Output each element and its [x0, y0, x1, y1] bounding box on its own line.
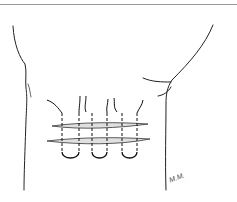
left-crease: [28, 84, 31, 97]
right-body-contour: [166, 25, 213, 190]
shoulder-line: [143, 78, 171, 82]
armpit-line: [158, 87, 171, 96]
left-body-contour: [13, 26, 27, 190]
surgical-illustration: [0, 0, 237, 202]
